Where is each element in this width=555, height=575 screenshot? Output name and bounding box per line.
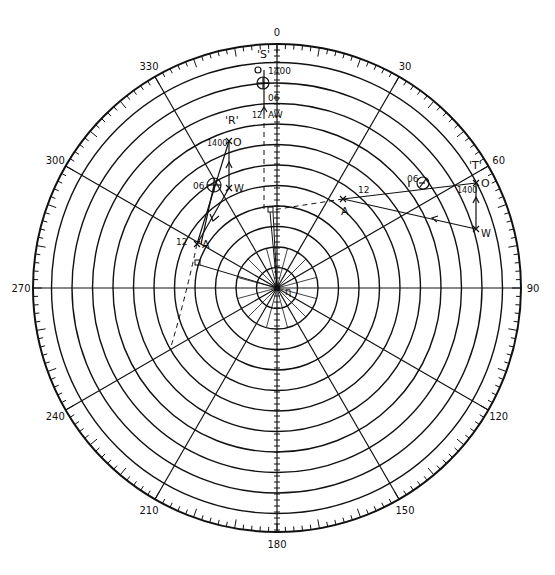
center-label: η [285, 286, 291, 297]
ship-s-aw: AW [268, 110, 283, 120]
bearing-label-150: 150 [395, 505, 414, 516]
ship-t-12: 12 [358, 185, 369, 195]
ship-r-o: O [233, 136, 242, 149]
ship-t-w: W [481, 228, 491, 239]
bearing-label-60: 60 [492, 155, 505, 166]
bearing-label-120: 120 [489, 411, 508, 422]
bearing-label-90: 90 [527, 283, 540, 294]
construction-lines [170, 114, 343, 350]
ship-r-a: A [202, 238, 210, 251]
ship-t-o: O [481, 177, 490, 190]
ship-t-name: 'T' [469, 159, 482, 172]
bearing-label-300: 300 [46, 155, 65, 166]
ship-r-12: 12 [176, 237, 187, 247]
bearing-line [66, 288, 277, 410]
bearing-label-330: 330 [139, 61, 158, 72]
ship-s-12: 12 [252, 111, 262, 120]
bearing-line [277, 288, 488, 410]
bearing-label-30: 30 [399, 61, 412, 72]
bearing-label-0: 0 [274, 27, 280, 38]
ship-t-1400: 1400 [457, 186, 477, 195]
bearing-label-180: 180 [267, 539, 286, 550]
bearing-line [66, 166, 277, 288]
bearing-line [277, 288, 399, 499]
ship-s-06: 06 [268, 93, 280, 103]
ship-r-name: 'R' [225, 114, 239, 127]
bearing-line [277, 77, 399, 288]
polar-diagram: 0306090120150180210240270300330 η 'S' 14… [0, 0, 555, 575]
ship-s-name: 'S' [257, 48, 270, 61]
ship-r-06: 06 [193, 181, 205, 191]
bearing-label-210: 210 [139, 505, 158, 516]
bearing-line [277, 166, 488, 288]
ship-t-06: 06 [407, 174, 419, 184]
bearing-label-240: 240 [46, 411, 65, 422]
bearing-label-270: 270 [11, 283, 30, 294]
ship-s-plot [255, 67, 269, 114]
ship-s-1400: 1400 [268, 66, 291, 76]
ship-t-a: A [341, 205, 349, 218]
ship-r-1400: 1400 [207, 139, 227, 148]
ship-r-w: W [234, 183, 244, 194]
bearing-line [155, 288, 277, 499]
